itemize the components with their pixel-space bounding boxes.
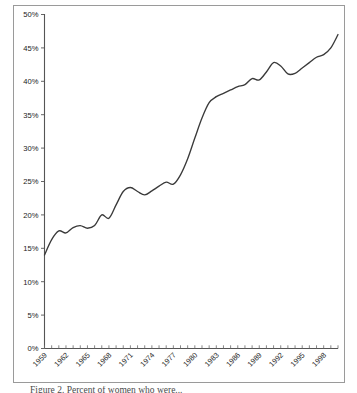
caption-text: Figure 2. Percent of women who were...	[0, 386, 357, 393]
x-axis: 1959196219651968197119741977198019831986…	[31, 345, 338, 368]
y-axis: 0%5%10%15%20%25%30%35%40%45%50%	[23, 10, 44, 353]
y-tick-label: 40%	[23, 77, 38, 86]
y-tick-label: 25%	[23, 177, 38, 186]
x-tick-label: 1998	[310, 351, 328, 369]
x-tick-label: 1989	[246, 351, 264, 369]
y-tick-label: 50%	[23, 10, 38, 19]
x-tick-label: 1995	[289, 351, 307, 369]
y-tick-label: 10%	[23, 278, 38, 287]
x-tick-label: 1992	[267, 351, 285, 369]
y-axis-tick-labels: 0%5%10%15%20%25%30%35%40%45%50%	[23, 10, 38, 353]
y-tick-label: 30%	[23, 144, 38, 153]
x-tick-label: 1974	[138, 351, 156, 369]
y-tick-label: 15%	[23, 244, 38, 253]
x-tick-label: 1980	[181, 351, 199, 369]
y-tick-label: 20%	[23, 211, 38, 220]
x-tick-label: 1986	[224, 351, 242, 369]
figure-caption-partial: Figure 2. Percent of women who were...	[0, 386, 357, 393]
y-tick-label: 5%	[28, 311, 39, 320]
x-tick-label: 1983	[203, 351, 221, 369]
data-series-line	[45, 35, 339, 255]
x-tick-label: 1965	[74, 351, 92, 369]
x-tick-label: 1977	[160, 351, 178, 369]
x-tick-label: 1962	[52, 351, 70, 369]
y-tick-label: 45%	[23, 44, 38, 53]
y-tick-label: 0%	[28, 344, 39, 353]
x-tick-label: 1971	[117, 351, 135, 369]
y-tick-label: 35%	[23, 111, 38, 120]
x-axis-tick-labels: 1959196219651968197119741977198019831986…	[31, 351, 328, 369]
line-chart: 0%5%10%15%20%25%30%35%40%45%50% 19591962…	[0, 0, 357, 393]
x-tick-label: 1968	[95, 351, 113, 369]
